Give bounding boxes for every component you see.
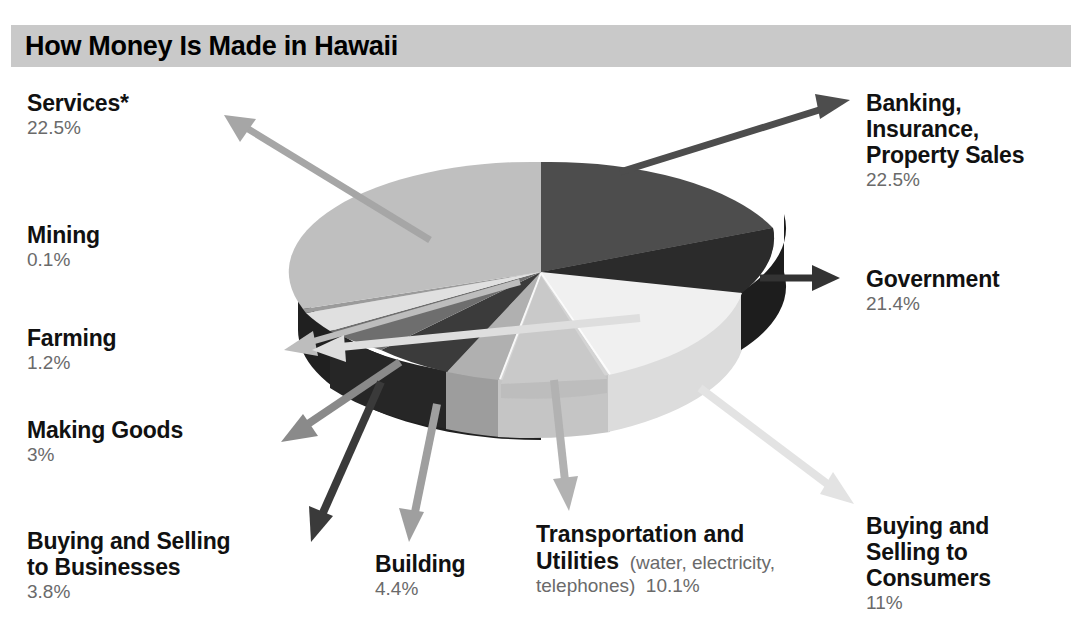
callout-transport-line2: Utilities (water, electricity, [536,548,866,575]
callout-consumers: Buying and Selling to Consumers 11% [866,513,991,615]
callout-consumers-name: Buying and Selling to Consumers [866,513,991,591]
arrow-banking [620,94,850,172]
callout-making-goods-name: Making Goods [27,417,183,443]
callout-government-name: Government [866,266,999,292]
callout-services: Services* 22.5% [27,90,129,140]
callout-government: Government 21.4% [866,266,999,316]
callout-businesses-value: 3.8% [27,581,230,604]
callout-mining-name: Mining [27,222,100,248]
callout-building-value: 4.4% [375,578,465,601]
callout-transport-value: 10.1% [646,575,700,596]
callout-farming-name: Farming [27,325,116,351]
callout-making-goods: Making Goods 3% [27,417,183,467]
callout-farming-value: 1.2% [27,352,116,375]
callout-transport: Transportation and Utilities (water, ele… [536,521,866,597]
callout-businesses-name: Buying and Selling to Businesses [27,528,230,580]
callout-making-goods-value: 3% [27,444,183,467]
callout-mining: Mining 0.1% [27,222,100,272]
callout-mining-value: 0.1% [27,249,100,272]
callout-building-name: Building [375,551,465,577]
callout-services-value: 22.5% [27,117,129,140]
callout-farming: Farming 1.2% [27,325,116,375]
callout-banking: Banking, Insurance, Property Sales 22.5% [866,90,1024,192]
callout-building: Building 4.4% [375,551,465,601]
callout-transport-line3: telephones) 10.1% [536,575,866,597]
callout-transport-name2: Utilities [536,548,619,574]
callout-transport-paren1: (water, electricity, [630,552,775,573]
callout-businesses: Buying and Selling to Businesses 3.8% [27,528,230,604]
callout-transport-line1: Transportation and [536,521,866,548]
arrow-consumers [700,388,854,504]
arrow-businesses [309,382,381,542]
callout-banking-value: 22.5% [866,169,1024,192]
callout-consumers-value: 11% [866,592,991,615]
callout-banking-name: Banking, Insurance, Property Sales [866,90,1024,168]
chart-canvas: How Money Is Made in Hawaii [0,0,1082,640]
callout-services-name: Services* [27,90,129,116]
callout-transport-paren2: telephones) [536,575,635,596]
callout-government-value: 21.4% [866,293,999,316]
